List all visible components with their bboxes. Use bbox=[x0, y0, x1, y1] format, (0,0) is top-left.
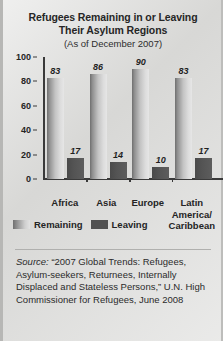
category-label-line: Latin bbox=[169, 197, 215, 209]
bar-value-label: 83 bbox=[50, 66, 60, 76]
source-divider bbox=[15, 249, 211, 250]
chart-figure: Refugees Remaining in or Leaving Their A… bbox=[0, 0, 223, 341]
category-label-line: Asia bbox=[86, 197, 128, 209]
legend-swatch-remaining-icon bbox=[13, 220, 30, 229]
y-axis-tick-mark bbox=[33, 57, 37, 58]
bar-value-label: 14 bbox=[113, 150, 123, 160]
bar-value-label: 17 bbox=[199, 146, 209, 156]
bar-value-label: 86 bbox=[93, 62, 103, 72]
y-axis: 100806040200 bbox=[11, 57, 37, 179]
bar-wrapper: 17 bbox=[195, 57, 212, 179]
y-axis-tick-label: 20 bbox=[21, 150, 31, 160]
bar-wrapper: 10 bbox=[152, 57, 169, 179]
category-label-line: Caribbean bbox=[169, 220, 215, 232]
legend-swatch-leaving-icon bbox=[91, 220, 108, 229]
y-axis-tick-label: 100 bbox=[16, 52, 31, 62]
bar-group: 8317 bbox=[172, 57, 215, 179]
source-label: Source: bbox=[16, 256, 49, 267]
bar-wrapper: 90 bbox=[132, 57, 149, 179]
legend-item-remaining: Remaining bbox=[13, 219, 83, 230]
chart-legend: Remaining Leaving bbox=[13, 219, 163, 230]
bar-leaving: 17 bbox=[195, 158, 212, 179]
y-axis-tick-label: 80 bbox=[21, 76, 31, 86]
category-label: LatinAmerica/Caribbean bbox=[169, 197, 215, 232]
bar-value-label: 90 bbox=[136, 57, 146, 67]
y-axis-tick-mark bbox=[33, 105, 37, 106]
bar-wrapper: 83 bbox=[47, 57, 64, 179]
y-axis-tick-mark bbox=[33, 154, 37, 155]
plot-area: 100806040200 8317861490108317 bbox=[11, 57, 215, 192]
category-label-line: Africa bbox=[44, 197, 86, 209]
legend-label-leaving: Leaving bbox=[112, 219, 148, 230]
bar-remaining: 83 bbox=[175, 78, 192, 179]
y-axis-tick-label: 60 bbox=[21, 101, 31, 111]
bars-layer: 8317861490108317 bbox=[44, 57, 215, 179]
y-axis-tick-label: 40 bbox=[21, 125, 31, 135]
y-axis-tick-label: 0 bbox=[26, 174, 31, 184]
chart-title-block: Refugees Remaining in or Leaving Their A… bbox=[3, 0, 221, 51]
category-label: Europe bbox=[127, 197, 169, 209]
bar-leaving: 10 bbox=[152, 167, 169, 179]
category-label-line: America/ bbox=[169, 209, 215, 221]
bar-wrapper: 17 bbox=[67, 57, 84, 179]
chart-title-line-1: Refugees Remaining in or Leaving bbox=[15, 11, 211, 24]
y-axis-tick-mark bbox=[33, 81, 37, 82]
category-label-line: Europe bbox=[127, 197, 169, 209]
bar-leaving: 17 bbox=[67, 158, 84, 179]
bar-value-label: 17 bbox=[70, 146, 80, 156]
bar-wrapper: 14 bbox=[110, 57, 127, 179]
category-label: Africa bbox=[44, 197, 86, 209]
bar-group: 8317 bbox=[44, 57, 87, 179]
bar-wrapper: 86 bbox=[90, 57, 107, 179]
bar-group: 9010 bbox=[130, 57, 173, 179]
bar-remaining: 90 bbox=[132, 69, 149, 179]
bar-value-label: 83 bbox=[179, 66, 189, 76]
bar-leaving: 14 bbox=[110, 162, 127, 179]
bar-group: 8614 bbox=[87, 57, 130, 179]
bar-wrapper: 83 bbox=[175, 57, 192, 179]
chart-title-line-2: Their Asylum Regions bbox=[15, 24, 211, 37]
legend-label-remaining: Remaining bbox=[34, 219, 83, 230]
source-note: Source: “2007 Global Trends: Refugees, A… bbox=[16, 256, 212, 306]
legend-item-leaving: Leaving bbox=[91, 219, 148, 230]
chart-subtitle: (As of December 2007) bbox=[15, 37, 211, 51]
bar-remaining: 83 bbox=[47, 78, 64, 179]
bar-remaining: 86 bbox=[90, 74, 107, 179]
y-axis-tick-mark bbox=[33, 130, 37, 131]
bar-value-label: 10 bbox=[156, 155, 166, 165]
y-axis-tick-mark bbox=[33, 179, 37, 180]
category-label: Asia bbox=[86, 197, 128, 209]
